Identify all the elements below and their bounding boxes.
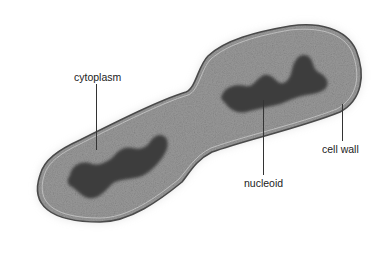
cell-wall-leader-line [342,104,343,141]
cytoplasm-label: cytoplasm [74,72,121,83]
cell-wall-label: cell wall [322,144,359,155]
bacterial-cell-micrograph: cytoplasm nucleoid cell wall [0,0,379,254]
nucleoid-label: nucleoid [244,178,283,189]
nucleoid-leader-line [263,100,264,175]
cytoplasm-leader-line [96,84,97,150]
